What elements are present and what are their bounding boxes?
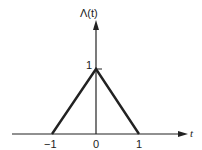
y-axis-label: Λ(t)	[80, 8, 98, 19]
x-tick-label-neg1: −1	[44, 139, 57, 150]
y-axis-arrow-icon	[93, 20, 99, 30]
x-axis-label: t	[190, 128, 193, 139]
triangle-function-plot: Λ(t) t 1 −1 0 1	[0, 0, 202, 150]
y-tick-label-1: 1	[86, 60, 92, 71]
x-tick-label-0: 0	[93, 139, 99, 150]
x-axis-arrow-icon	[178, 131, 188, 137]
plot-canvas	[0, 0, 202, 150]
x-tick-label-1: 1	[136, 139, 142, 150]
